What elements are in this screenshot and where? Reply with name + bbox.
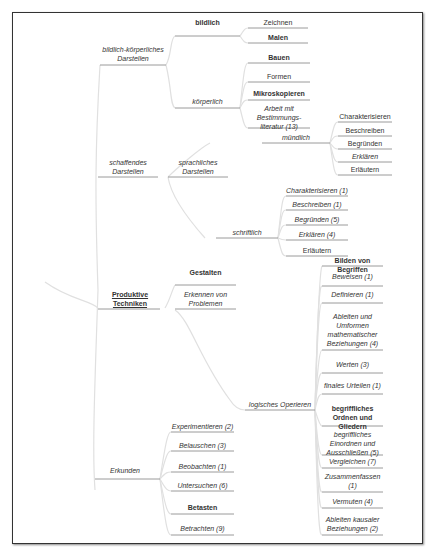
node-erkennen-problemen[interactable]: Erkennen von Problemen [175, 290, 236, 308]
node-werten[interactable]: Werten (3) [322, 360, 383, 369]
node-bauen[interactable]: Bauen [248, 53, 310, 62]
node-s-begruenden[interactable]: Begründen (5) [286, 215, 348, 224]
node-bildlich[interactable]: bildlich [175, 18, 240, 27]
node-finales-urteilen[interactable]: finales Urteilen (1) [322, 381, 383, 390]
node-m-beschreiben[interactable]: Beschreiben [338, 126, 392, 135]
node-beobachten[interactable]: Beobachten (1) [171, 462, 234, 471]
node-gestalten[interactable]: Gestalten [175, 268, 236, 277]
node-mikroskopieren[interactable]: Mikroskopieren [248, 89, 310, 98]
node-s-charakterisieren[interactable]: Charakterisieren (1) [286, 186, 348, 195]
node-experimentieren[interactable]: Experimentieren (2) [171, 422, 234, 431]
node-root[interactable]: Produktive Techniken [105, 290, 155, 308]
node-s-beschreiben[interactable]: Beschreiben (1) [286, 200, 348, 209]
node-m-begruenden[interactable]: Begründen [338, 139, 392, 148]
node-s-erlaeutern[interactable]: Erläutern [286, 246, 348, 255]
node-arbeit-bestimmungsliteratur[interactable]: Arbeit mit Bestimmungs-literatur (13) [250, 104, 308, 131]
node-untersuchen[interactable]: Untersuchen (6) [171, 481, 234, 490]
node-definieren[interactable]: Definieren (1) [322, 290, 383, 299]
node-erkunden[interactable]: Erkunden [95, 466, 155, 475]
node-formen[interactable]: Formen [248, 72, 310, 81]
node-ableiten-umformen[interactable]: Ableiten und Umformen mathematischer Bez… [322, 312, 383, 348]
node-belauschen[interactable]: Belauschen (3) [171, 441, 234, 450]
node-logisches-operieren[interactable]: logisches Operieren [245, 400, 315, 409]
node-m-erklaeren[interactable]: Erklären [338, 152, 392, 161]
node-zusammenfassen[interactable]: Zusammenfassen (1) [322, 472, 383, 490]
node-begriffliches-einordnen[interactable]: begriffliches Einordnen und Ausschließen… [322, 430, 383, 457]
node-betasten[interactable]: Betasten [171, 503, 234, 512]
node-s-erklaeren[interactable]: Erklären (4) [286, 230, 348, 239]
node-ableiten-kausal[interactable]: Ableiten kausaler Beziehungen (2) [322, 515, 383, 533]
node-muendlich[interactable]: mündlich [262, 133, 330, 142]
node-malen[interactable]: Malen [248, 33, 308, 42]
node-sprachliches[interactable]: sprachliches Darstellen [168, 158, 228, 176]
node-schriftlich[interactable]: schriftlich [216, 228, 278, 237]
node-koerperlich[interactable]: körperlich [175, 97, 240, 106]
node-vergleichen[interactable]: Vergleichen (7) [322, 457, 383, 466]
node-schaffendes[interactable]: schaffendes Darstellen [98, 158, 158, 176]
node-begriffliches-ordnen[interactable]: begriffliches Ordnen und Gliedern [322, 404, 383, 431]
node-bildlich-koerperlich[interactable]: bildlich-körperliches Darstellen [100, 45, 166, 63]
node-betrachten[interactable]: Betrachten (9) [171, 524, 234, 533]
node-zeichnen[interactable]: Zeichnen [248, 18, 308, 27]
node-vermuten[interactable]: Vermuten (4) [322, 497, 383, 506]
node-m-erlaeutern[interactable]: Erläutern [338, 165, 392, 174]
node-m-charakterisieren[interactable]: Charakterisieren [338, 112, 392, 121]
node-beweisen[interactable]: Beweisen (1) [322, 272, 383, 281]
